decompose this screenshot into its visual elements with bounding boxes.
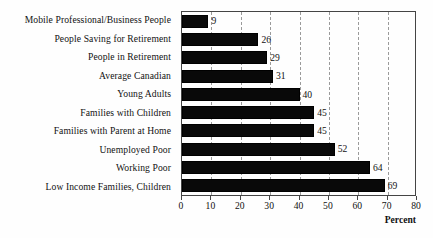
bar-row: 45 [182,124,415,137]
x-tick-label: 20 [235,201,245,211]
category-label: Unemployed Poor [99,145,176,155]
bar [182,106,314,119]
bar [182,161,370,174]
bar [182,33,258,46]
bar [182,124,314,137]
bar-value-label: 45 [317,126,327,136]
category-label: Young Adults [117,89,176,99]
bar-value-label: 52 [338,144,348,154]
bar-row: 64 [182,161,415,174]
bar-value-label: 29 [270,53,280,63]
bar-row: 40 [182,88,415,101]
category-label: Families with Children [80,108,176,118]
bar-row: 52 [182,143,415,156]
bar-chart: Mobile Professional/Business PeoplePeopl… [0,0,433,238]
bar [182,179,385,192]
bar [182,70,273,83]
bar [182,51,267,64]
bar-value-label: 40 [303,90,313,100]
plot-area: 9262931404545526469 [181,11,416,196]
bar [182,143,335,156]
bar-value-label: 26 [261,35,271,45]
x-tick-label: 30 [264,201,274,211]
bar-row: 29 [182,51,415,64]
bar-value-label: 45 [317,108,327,118]
category-axis-labels: Mobile Professional/Business PeoplePeopl… [0,11,176,196]
category-label: Low Income Families, Children [46,182,176,192]
bar-series: 9262931404545526469 [182,12,415,195]
bar-row: 45 [182,106,415,119]
bar-row: 31 [182,70,415,83]
category-label: Working Poor [116,163,176,173]
bar-value-label: 64 [373,163,383,173]
x-axis-tick-labels: 01020304050607080 [181,201,416,215]
x-tick-label: 40 [294,201,304,211]
x-tick-label: 80 [411,201,421,211]
bar-value-label: 9 [211,16,216,26]
bar [182,88,300,101]
bar-value-label: 31 [276,71,286,81]
bar-row: 9 [182,15,415,28]
x-tick-label: 50 [323,201,333,211]
bar-row: 69 [182,179,415,192]
category-label: Mobile Professional/Business People [25,15,176,25]
category-label: People Saving for Retirement [54,34,176,44]
bar-row: 26 [182,33,415,46]
category-label: Families with Parent at Home [54,126,176,136]
x-tick-label: 70 [382,201,392,211]
category-label: Average Canadian [99,71,176,81]
bar [182,15,208,28]
x-tick-label: 10 [206,201,216,211]
x-tick-label: 60 [352,201,362,211]
bar-value-label: 69 [388,181,398,191]
x-tick-label: 0 [179,201,184,211]
category-label: People in Retirement [88,52,176,62]
x-axis-title: Percent [181,215,416,225]
